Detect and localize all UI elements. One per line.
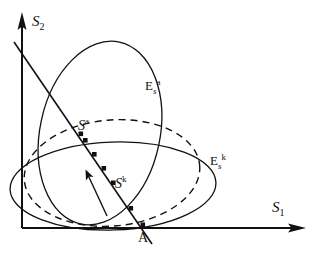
curve-label-Esk-sup: k [221,152,226,162]
figure-root: S2 S1 Esa Esk Sa Sk A [0,0,315,253]
s2-axis-label-text: S [32,13,40,29]
marker-dot [102,166,107,171]
curve-label-Esa-sup: a [156,77,160,87]
curve-label-Esa: Esa [145,78,160,96]
point-label-A-text: A [138,230,148,245]
point-label-Sa-text: S [78,118,85,133]
curve-label-Esk-text: E [210,153,218,168]
point-label-Sk-text: S [115,176,122,191]
s2-axis-label: S2 [32,14,45,32]
marker-dot [83,138,88,143]
trajectory-ray [14,42,152,244]
ray-marker-dots [79,132,146,228]
point-label-Sa: Sa [78,117,89,133]
direction-arrow [86,170,108,217]
marker-dot [129,206,134,211]
s1-axis-label-sub: 1 [280,207,285,218]
s1-axis-label-text: S [272,199,280,215]
dashed-flat-ellipse [20,113,205,234]
figure-canvas [0,0,315,253]
direction-arrow-shaft [88,175,107,216]
curve-label-Esa-text: E [145,78,153,93]
point-label-Sa-sup: a [85,116,89,126]
marker-dot [92,152,97,157]
tall-ellipse-Esa [22,30,178,237]
curve-label-Esk-sub: s [218,161,222,171]
curve-label-Esa-sub: s [153,86,157,96]
trajectory-ray-line [14,42,152,244]
point-label-Sk: Sk [115,175,127,191]
point-label-A: A [138,231,148,245]
curve-label-Esk: Esk [210,153,226,171]
marker-dot [141,223,146,228]
point-label-Sk-sup: k [122,174,127,184]
s2-axis-label-sub: 2 [40,21,45,32]
s1-axis-label: S1 [272,200,285,218]
